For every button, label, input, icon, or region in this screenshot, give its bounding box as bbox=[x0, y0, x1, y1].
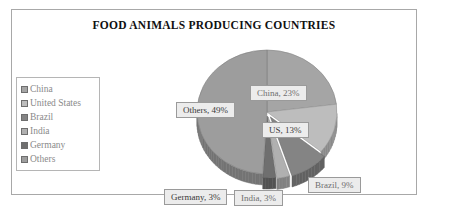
legend-item-others[interactable]: Others bbox=[21, 152, 96, 166]
legend-label-united-states: United States bbox=[30, 98, 81, 108]
others-data-label: Others, 49% bbox=[176, 102, 235, 118]
legend-label-india: India bbox=[30, 126, 50, 136]
legend-item-united-states[interactable]: United States bbox=[21, 96, 96, 110]
legend-swatch-germany bbox=[21, 142, 28, 149]
pie-slice-china[interactable] bbox=[267, 50, 336, 112]
india-data-label: India, 3% bbox=[234, 190, 283, 206]
brazil-data-label: Brazil, 9% bbox=[308, 177, 361, 193]
legend-item-china[interactable]: China bbox=[21, 82, 96, 96]
chart-legend: China United States Brazil India Germany… bbox=[16, 77, 100, 171]
us-data-label: US, 13% bbox=[262, 122, 309, 138]
pie-chart-plot-area bbox=[167, 46, 367, 196]
legend-swatch-brazil bbox=[21, 114, 28, 121]
legend-swatch-china bbox=[21, 86, 28, 93]
china-data-label: China, 23% bbox=[250, 85, 307, 101]
legend-swatch-others bbox=[21, 156, 28, 163]
legend-item-india[interactable]: India bbox=[21, 124, 96, 138]
legend-item-germany[interactable]: Germany bbox=[21, 138, 96, 152]
pie-chart-svg bbox=[167, 46, 367, 196]
legend-swatch-india bbox=[21, 128, 28, 135]
chart-frame: FOOD ANIMALS PRODUCING COUNTRIES China U… bbox=[11, 9, 417, 195]
chart-title: FOOD ANIMALS PRODUCING COUNTRIES bbox=[12, 19, 416, 31]
legend-label-germany: Germany bbox=[30, 140, 65, 150]
legend-label-brazil: Brazil bbox=[30, 112, 53, 122]
legend-label-others: Others bbox=[30, 154, 55, 164]
legend-item-brazil[interactable]: Brazil bbox=[21, 110, 96, 124]
legend-swatch-united-states bbox=[21, 100, 28, 107]
germany-data-label: Germany, 3% bbox=[164, 189, 227, 205]
legend-label-china: China bbox=[30, 84, 53, 94]
